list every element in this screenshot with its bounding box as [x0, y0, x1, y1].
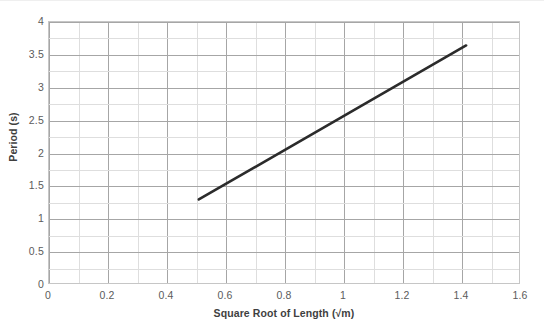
chart-figure: 00.511.522.533.54 00.20.40.60.811.21.41.… [0, 0, 544, 330]
x-tick-label: 0 [18, 289, 78, 301]
series-line-chart [49, 22, 519, 283]
plot-area [48, 21, 520, 284]
y-tick-label: 0.5 [4, 245, 44, 257]
x-tick-label: 1.2 [372, 289, 432, 301]
x-tick-label: 1 [313, 289, 373, 301]
x-tick-label: 0.6 [195, 289, 255, 301]
y-tick-label: 1 [4, 212, 44, 224]
x-tick-label: 0.2 [77, 289, 137, 301]
y-tick-label: 3.5 [4, 48, 44, 60]
y-tick-label: 4 [4, 15, 44, 27]
y-tick-label: 1.5 [4, 179, 44, 191]
x-axis-tick-labels: 00.20.40.60.811.21.41.6 [48, 289, 520, 305]
x-axis-title: Square Root of Length (√m) [48, 307, 520, 319]
y-axis-title: Period (s) [7, 97, 19, 177]
y-tick-label: 3 [4, 81, 44, 93]
data-series-line [199, 45, 466, 199]
x-tick-label: 0.8 [254, 289, 314, 301]
x-tick-label: 1.6 [490, 289, 544, 301]
x-tick-label: 0.4 [136, 289, 196, 301]
x-tick-label: 1.4 [431, 289, 491, 301]
